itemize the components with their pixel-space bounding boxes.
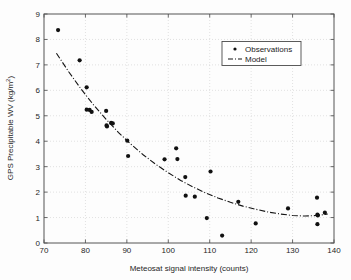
x-tick-label: 100	[162, 246, 176, 255]
svg-text:GPS Precipitable WV (kg/m2): GPS Precipitable WV (kg/m2)	[5, 76, 15, 181]
x-axis-title: Meteosat signal intensity (counts)	[130, 264, 249, 273]
data-point	[125, 139, 129, 143]
y-tick-label: 3	[36, 163, 41, 172]
figure-canvas: 708090100110120130140 0123456789 Meteosa…	[0, 0, 351, 280]
data-point	[126, 154, 130, 158]
data-point	[90, 110, 94, 114]
data-point	[315, 196, 319, 200]
scatter-plot: 708090100110120130140 0123456789 Meteosa…	[0, 0, 351, 280]
y-tick-label: 5	[36, 112, 41, 121]
y-tick-label: 0	[36, 239, 41, 248]
data-point	[105, 124, 109, 128]
data-point	[162, 157, 166, 161]
data-point	[254, 221, 258, 225]
legend[interactable]: Observations Model	[222, 42, 301, 66]
x-tick-label: 120	[244, 246, 258, 255]
y-tick-label: 9	[36, 10, 41, 19]
data-point	[56, 28, 60, 32]
data-point	[316, 213, 320, 217]
y-tick-label: 2	[36, 188, 41, 197]
data-point	[315, 222, 319, 226]
y-axis-title-close: )	[6, 76, 15, 79]
data-point	[183, 175, 187, 179]
y-tick-label: 8	[36, 35, 41, 44]
y-axis-title: GPS Precipitable WV (kg/m	[6, 82, 15, 181]
y-axis-title-group: GPS Precipitable WV (kg/m2)	[5, 76, 15, 181]
data-point	[220, 234, 224, 238]
data-point	[184, 194, 188, 198]
data-point	[104, 109, 108, 113]
y-tick-label: 6	[36, 86, 41, 95]
data-point	[175, 157, 179, 161]
data-point	[174, 146, 178, 150]
y-tick-label: 1	[36, 214, 41, 223]
data-point	[236, 200, 240, 204]
data-point	[193, 195, 197, 199]
x-tick-label: 130	[286, 246, 300, 255]
model-curve	[56, 53, 327, 216]
x-tick-label: 90	[122, 246, 131, 255]
legend-label-observations: Observations	[245, 45, 292, 54]
data-point	[78, 58, 82, 62]
data-point	[85, 85, 89, 89]
y-tick-label: 4	[36, 137, 41, 146]
data-point	[205, 216, 209, 220]
y-tick-labels: 0123456789	[36, 10, 41, 248]
data-point	[323, 211, 327, 215]
x-tick-label: 80	[81, 246, 90, 255]
data-point	[286, 206, 290, 210]
legend-dot-marker	[233, 47, 236, 50]
x-tick-label: 140	[327, 246, 341, 255]
y-tick-label: 7	[36, 61, 41, 70]
legend-label-model: Model	[245, 55, 267, 64]
x-tick-labels: 708090100110120130140	[40, 246, 342, 255]
x-tick-label: 70	[40, 246, 49, 255]
data-point	[208, 169, 212, 173]
data-point	[111, 121, 115, 125]
x-tick-label: 110	[203, 246, 216, 255]
